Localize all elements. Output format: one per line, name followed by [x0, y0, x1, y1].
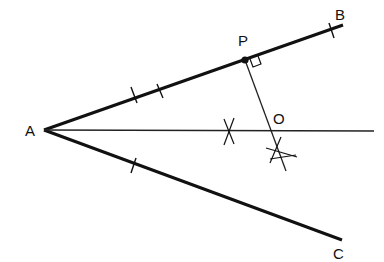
angle-bisector-diagram: A B C P O [0, 0, 384, 262]
angle-bisector-line [44, 130, 374, 131]
point-p [241, 56, 248, 63]
label-b: B [335, 6, 345, 23]
ray-ab [44, 25, 343, 130]
tick-mark-ac [131, 158, 136, 173]
label-c: C [333, 245, 344, 262]
ray-ac [44, 130, 342, 240]
arc-cross-1 [224, 118, 234, 145]
label-o: O [273, 110, 285, 127]
label-a: A [25, 122, 35, 139]
label-p: P [238, 32, 248, 49]
